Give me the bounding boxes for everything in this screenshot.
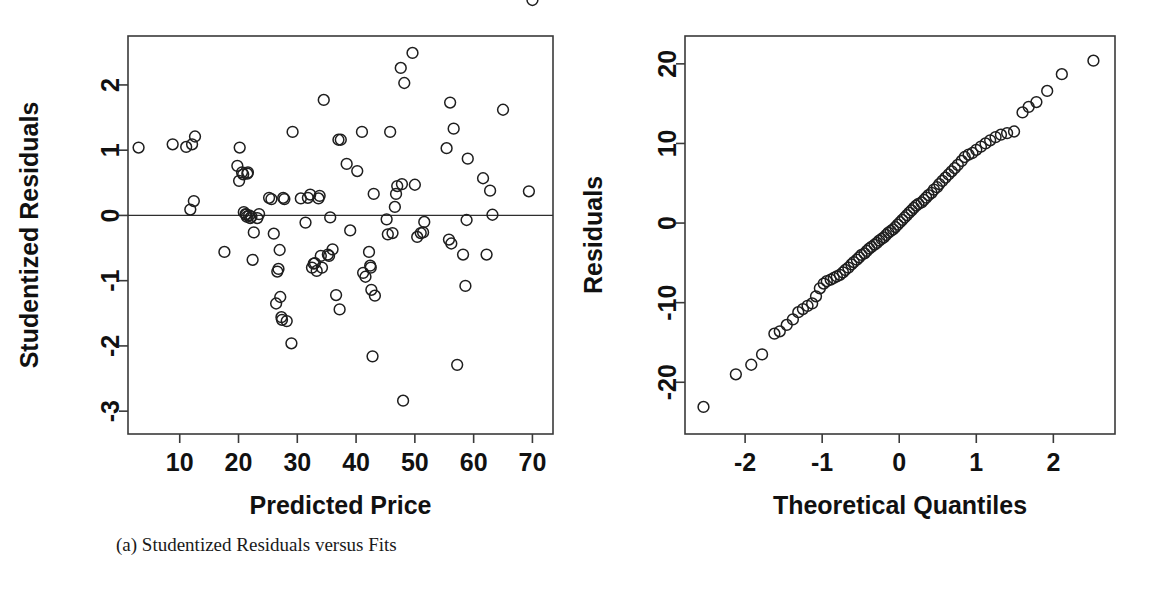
data-point — [485, 185, 496, 196]
data-point — [445, 97, 456, 108]
x-tick-label: 70 — [519, 448, 547, 476]
x-tick-label: 40 — [342, 448, 370, 476]
x-tick-label: 20 — [225, 448, 253, 476]
data-point — [448, 123, 459, 134]
data-point — [367, 351, 378, 362]
data-point — [345, 225, 356, 236]
data-point — [219, 247, 230, 258]
data-point — [286, 338, 297, 349]
data-point — [364, 247, 375, 258]
caption-panel-a: (a) Studentized Residuals versus Fits — [116, 534, 397, 556]
data-point — [341, 158, 352, 169]
data-point — [461, 215, 472, 226]
data-point — [1056, 69, 1067, 80]
data-point — [1002, 128, 1013, 139]
data-point — [334, 304, 345, 315]
y-tick-label: 2 — [96, 78, 124, 92]
data-point — [487, 209, 498, 220]
data-points — [698, 55, 1099, 412]
data-point — [300, 217, 311, 228]
scatter-plot-a: 10203040506070210-1-2-3Predicted PriceSt… — [0, 0, 579, 520]
data-point — [133, 142, 144, 153]
data-point — [460, 280, 471, 291]
data-point — [527, 0, 538, 5]
x-tick-label: 30 — [283, 448, 311, 476]
y-axis-title: Studentized Residuals — [15, 102, 43, 369]
data-point — [949, 163, 960, 174]
y-tick-label: 0 — [96, 208, 124, 222]
data-points — [133, 0, 538, 406]
data-point — [318, 95, 329, 106]
data-point — [730, 369, 741, 380]
y-axis-title: Residuals — [580, 176, 607, 294]
data-point — [409, 179, 420, 190]
data-point — [462, 153, 473, 164]
y-tick-label: 1 — [96, 143, 124, 157]
x-axis-title: Theoretical Quantiles — [773, 491, 1027, 519]
y-tick-label: 10 — [653, 130, 681, 158]
data-point — [1009, 126, 1020, 137]
data-point — [1042, 86, 1053, 97]
data-point — [167, 139, 178, 150]
data-point — [247, 254, 258, 265]
data-point — [331, 290, 342, 301]
data-point — [398, 395, 409, 406]
data-point — [248, 227, 259, 238]
data-point — [943, 169, 954, 180]
data-point — [352, 166, 363, 177]
data-point — [441, 143, 452, 154]
data-point — [698, 402, 709, 413]
data-point — [757, 349, 768, 360]
data-point — [524, 186, 535, 197]
x-tick-label: 2 — [1046, 448, 1060, 476]
data-point — [478, 173, 489, 184]
data-point — [498, 104, 509, 115]
x-tick-label: 1 — [969, 448, 983, 476]
x-tick-label: 0 — [892, 448, 906, 476]
data-point — [395, 63, 406, 74]
y-tick-label: -10 — [653, 285, 681, 321]
data-point — [746, 359, 757, 370]
plot-frame — [128, 36, 553, 434]
data-point — [325, 212, 336, 223]
data-point — [458, 249, 469, 260]
data-point — [234, 142, 245, 153]
y-tick-label: -2 — [96, 335, 124, 357]
y-tick-label: 20 — [653, 50, 681, 78]
data-point — [940, 172, 951, 183]
data-point — [446, 238, 457, 249]
x-tick-label: 60 — [460, 448, 488, 476]
data-point — [302, 192, 313, 203]
data-point — [946, 166, 957, 177]
data-point — [274, 245, 285, 256]
y-tick-label: 0 — [653, 216, 681, 230]
data-point — [407, 48, 418, 59]
data-point — [481, 249, 492, 260]
data-point — [1088, 55, 1099, 66]
data-point — [1031, 97, 1042, 108]
panel-studentized-residuals: 10203040506070210-1-2-3Predicted PriceSt… — [0, 0, 579, 596]
data-point — [389, 202, 400, 213]
x-tick-label: 50 — [401, 448, 429, 476]
x-tick-label: -1 — [811, 448, 833, 476]
y-tick-label: -20 — [653, 364, 681, 400]
data-point — [287, 127, 298, 138]
x-tick-label: -2 — [734, 448, 756, 476]
panel-normal-plot: -2-101220100-10-20Theoretical QuantilesR… — [580, 0, 1159, 596]
x-tick-label: 10 — [166, 448, 194, 476]
data-point — [452, 359, 463, 370]
x-axis-title: Predicted Price — [249, 491, 431, 519]
data-point — [399, 78, 410, 89]
data-point — [385, 127, 396, 138]
data-point — [368, 189, 379, 200]
y-tick-label: -3 — [96, 400, 124, 422]
y-tick-label: -1 — [96, 269, 124, 291]
figure-container: 10203040506070210-1-2-3Predicted PriceSt… — [0, 0, 1159, 596]
data-point — [357, 127, 368, 138]
data-point — [419, 217, 430, 228]
data-point — [268, 228, 279, 239]
scatter-plot-b: -2-101220100-10-20Theoretical QuantilesR… — [580, 0, 1159, 520]
